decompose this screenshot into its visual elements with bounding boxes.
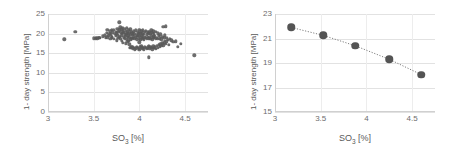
y-gridline [48,92,208,93]
scatter-chart-panel: 051015202533.544.5 SO3 [%] 1- day streng… [0,0,229,153]
x-axis-line [48,111,208,112]
data-point [179,42,182,45]
x-gridline [94,14,95,112]
data-point [352,42,360,50]
data-point [288,24,296,32]
x-axis-label-text: SO [112,133,125,143]
data-point [118,21,121,24]
data-point [147,55,150,58]
data-point [97,36,100,39]
y-axis-tick-label: 0 [41,108,45,116]
y-axis-tick-label: 15 [36,49,45,57]
x-axis-tick-label: 3 [46,115,50,123]
plot-area-right: 151719212333.544.5 [275,14,435,112]
y-gridline [48,53,208,54]
x-axis-label-text: SO [339,133,352,143]
data-point [320,32,328,40]
y-gridline [48,112,208,113]
y-gridline [275,112,435,113]
x-axis-tick-label: 4.5 [407,115,418,123]
y-axis-tick-label: 23 [263,10,272,18]
y-axis-tick-label: 19 [263,59,272,67]
y-axis-tick-label: 25 [36,10,45,18]
y-axis-tick-label: 17 [263,84,272,92]
x-axis-label-unit: [%] [356,133,372,143]
data-point [176,45,179,48]
x-axis-label-right: SO3 [%] [339,133,371,145]
y-axis-tick-label: 5 [41,88,45,96]
y-axis-tick-label: 21 [263,35,272,43]
y-gridline [48,14,208,15]
x-axis-tick-label: 3 [273,115,277,123]
x-axis-label-left: SO3 [%] [112,133,144,145]
data-point [386,56,394,64]
y-axis-tick-label: 10 [36,69,45,77]
y-axis-line [48,14,49,112]
y-axis-label-left: 1- day strength [MPa] [22,34,31,110]
x-axis-tick-label: 3.5 [315,115,326,123]
y-axis-tick-label: 15 [263,108,272,116]
x-axis-tick-label: 4 [137,115,141,123]
data-point [63,38,66,41]
figure-container: 051015202533.544.5 SO3 [%] 1- day streng… [0,0,457,153]
trend-line [275,14,435,112]
data-point [193,53,196,56]
y-gridline [48,73,208,74]
x-axis-label-unit: [%] [129,133,145,143]
y-axis-tick-label: 20 [36,30,45,38]
x-gridline [185,14,186,112]
data-point [167,43,170,46]
x-axis-tick-label: 4.5 [180,115,191,123]
x-axis-tick-label: 3.5 [88,115,99,123]
plot-area-left: 051015202533.544.5 [48,14,208,112]
data-point [418,71,426,79]
data-point [164,24,167,27]
data-point [174,40,177,43]
trend-chart-panel: 151719212333.544.5 SO3 [%] 1- day streng… [229,0,457,153]
x-axis-tick-label: 4 [364,115,368,123]
y-axis-label-right: 1- day strength [MPa] [249,34,258,110]
